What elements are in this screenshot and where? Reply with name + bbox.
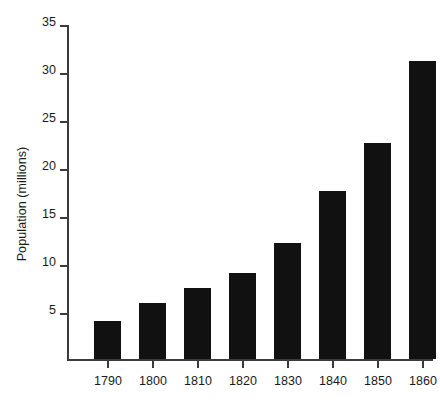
plot-area: 35 30 25 20 15 10 5 xyxy=(67,25,433,361)
y-tick-label: 5 xyxy=(49,304,56,317)
x-tick-1790 xyxy=(107,361,109,368)
y-tick-mark xyxy=(60,169,67,171)
y-axis-line xyxy=(67,25,69,361)
bar-1830 xyxy=(274,243,301,359)
y-tick-label: 20 xyxy=(42,160,56,173)
bar-1810 xyxy=(184,288,211,359)
y-tick-mark xyxy=(60,313,67,315)
y-tick-label: 30 xyxy=(42,64,56,77)
x-tick-1860 xyxy=(422,361,424,368)
bar-1850 xyxy=(364,143,391,359)
x-tick-1830 xyxy=(287,361,289,368)
y-tick-label: 10 xyxy=(42,256,56,269)
y-tick-label: 35 xyxy=(42,16,56,29)
bar-1860 xyxy=(409,61,436,359)
y-tick-mark xyxy=(60,217,67,219)
y-tick-mark xyxy=(60,265,67,267)
x-tick-1820 xyxy=(242,361,244,368)
x-tick-1850 xyxy=(377,361,379,368)
x-tick-label-1860: 1860 xyxy=(393,375,440,388)
x-tick-1810 xyxy=(197,361,199,368)
y-axis-title: Population (millions) xyxy=(0,0,44,408)
bar-1790 xyxy=(94,321,121,359)
y-tick-mark xyxy=(60,73,67,75)
bar-1820 xyxy=(229,273,256,359)
x-tick-1840 xyxy=(332,361,334,368)
y-tick-label: 15 xyxy=(42,208,56,221)
bar-1840 xyxy=(319,191,346,359)
y-tick-label: 25 xyxy=(42,112,56,125)
y-tick-mark xyxy=(60,25,67,27)
bar-1800 xyxy=(139,303,166,359)
bar-chart-figure: Population (millions) 35 30 25 20 15 10 xyxy=(0,0,440,408)
x-tick-1800 xyxy=(152,361,154,368)
y-tick-mark xyxy=(60,121,67,123)
